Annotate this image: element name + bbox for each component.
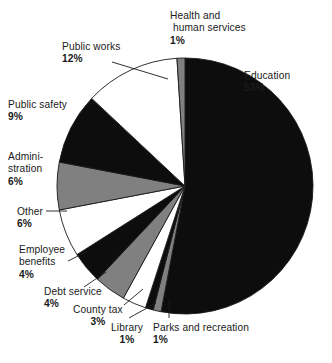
slice-label-text-line1: Health and <box>170 10 246 22</box>
slice-label-text-line1: Education <box>244 70 290 82</box>
slice-percent-parks-and-recreation: 1% <box>153 334 249 346</box>
slice-label-text-line1: County tax <box>73 304 123 316</box>
slice-label-other: Other 6% <box>17 206 43 231</box>
slice-label-text-line1: Parks and recreation <box>153 322 249 334</box>
slice-percent-library: 1% <box>111 334 143 346</box>
slice-label-administration: Admini- stration 6% <box>8 151 43 188</box>
slice-label-health-and-human-services: Health and human services 1% <box>170 10 246 47</box>
slice-label-parks-and-recreation: Parks and recreation 1% <box>153 322 249 347</box>
slice-percent-health-and-human-services: 1% <box>170 35 246 47</box>
slice-percent-public-works: 12% <box>62 53 120 65</box>
slice-label-public-works: Public works 12% <box>62 41 120 66</box>
pie-chart-figure: Health and human services 1% Education 5… <box>0 0 332 363</box>
slice-percent-employee-benefits: 4% <box>19 269 65 281</box>
slice-percent-education: 53% <box>244 82 290 94</box>
slice-label-text-line1: Other <box>17 206 43 218</box>
slice-label-text-line2: benefits <box>19 256 65 268</box>
slice-label-public-safety: Public safety 9% <box>8 99 67 124</box>
slice-label-text-line1: Public works <box>62 41 120 53</box>
slice-label-text-line1: Debt service <box>44 286 102 298</box>
slice-label-education: Education 53% <box>244 70 290 95</box>
slice-label-text-line2: human services <box>170 22 246 34</box>
slice-label-text-line1: Admini- <box>8 151 43 163</box>
slice-percent-public-safety: 9% <box>8 111 67 123</box>
pie-slice-group <box>57 58 313 314</box>
slice-label-text-line1: Employee <box>19 244 65 256</box>
slice-label-text-line2: stration <box>8 163 43 175</box>
slice-label-text-line1: Public safety <box>8 99 67 111</box>
slice-percent-administration: 6% <box>8 176 43 188</box>
slice-label-library: Library 1% <box>111 322 143 347</box>
slice-label-text-line1: Library <box>111 322 143 334</box>
slice-percent-other: 6% <box>17 218 43 230</box>
slice-label-employee-benefits: Employee benefits 4% <box>19 244 65 281</box>
